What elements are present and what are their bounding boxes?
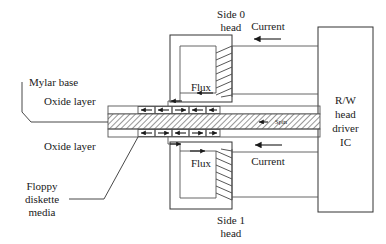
side-0-head-label-line2: head — [221, 21, 242, 33]
side-1-wires: Current — [232, 145, 318, 197]
floppy-head-diagram: R/W head driver IC Flux Side 0 — [0, 0, 386, 244]
current-bottom-label: Current — [251, 155, 285, 167]
driver-ic-label-line1: R/W — [335, 94, 356, 106]
oxide-layer-bottom-label: Oxide layer — [44, 140, 96, 152]
current-top-label: Current — [251, 20, 285, 32]
oxide-layer-top-label: Oxide layer — [44, 95, 96, 107]
spin-label: Spin — [275, 118, 288, 125]
side-0-head-group: Flux Side 0 head — [168, 8, 245, 106]
side-1-head-label-line1: Side 1 — [217, 214, 245, 226]
callout-oxide-bottom: Oxide layer — [44, 140, 96, 152]
top-track-domains — [138, 107, 220, 114]
driver-ic-group: R/W head driver IC — [318, 27, 373, 212]
driver-ic-label-line4: IC — [340, 136, 351, 148]
side-1-head-outer-body — [170, 142, 232, 209]
floppy-media-label-line3: media — [29, 206, 56, 218]
side-0-wires: Current — [232, 20, 318, 94]
diagram-page: R/W head driver IC Flux Side 0 — [0, 0, 386, 244]
driver-ic-label-line2: head — [335, 108, 356, 120]
side-1-flux-label: Flux — [191, 157, 212, 169]
callout-oxide-top: Oxide layer — [44, 95, 96, 107]
driver-ic-label-line3: driver — [332, 122, 359, 134]
floppy-media-strip: Spin — [108, 106, 320, 137]
side-0-head-label-line1: Side 0 — [217, 8, 245, 20]
mylar-base-band — [108, 114, 320, 129]
floppy-media-label-line2: diskette — [25, 193, 59, 205]
side-1-head-label-line2: head — [221, 227, 242, 239]
side-0-flux-label: Flux — [191, 81, 212, 93]
mylar-base-label: Mylar base — [29, 76, 78, 88]
bottom-track-domains — [138, 130, 220, 137]
floppy-media-label-line1: Floppy — [26, 180, 58, 192]
